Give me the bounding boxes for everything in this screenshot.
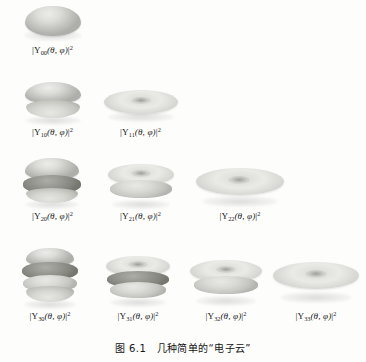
cell-Y31: |Y31(θ, φ)|2 xyxy=(88,248,188,322)
label-Y33: |Y33(θ, φ)|2 xyxy=(266,310,366,322)
cell-Y32: |Y32(θ, φ)|2 xyxy=(176,248,276,322)
cell-Y30: |Y30(θ, φ)|2 xyxy=(0,248,100,322)
shape-Y30 xyxy=(12,248,88,310)
label-Y32: |Y32(θ, φ)|2 xyxy=(176,310,276,322)
figure-row-l2: |Y20(θ, φ)|2 |Y21(θ, φ)|2 |Y22(θ, φ)|2 xyxy=(0,158,366,230)
label-Y31: |Y31(θ, φ)|2 xyxy=(88,310,188,322)
cell-Y21: |Y21(θ, φ)|2 xyxy=(88,158,193,222)
center-dimple xyxy=(128,261,148,268)
shape-Y21 xyxy=(100,158,182,210)
cell-Y22: |Y22(θ, φ)|2 xyxy=(180,158,300,222)
shape-Y10 xyxy=(15,80,91,126)
shape-shadow xyxy=(202,196,278,207)
label-Y21: |Y21(θ, φ)|2 xyxy=(88,210,193,222)
figure-row-l0: |Y00(θ, φ)|2 xyxy=(0,0,366,68)
shape-Y20 xyxy=(13,158,93,210)
figure-caption: 图 6.1 几种简单的“电子云” xyxy=(0,340,366,355)
cell-Y33: |Y33(θ, φ)|2 xyxy=(266,248,366,322)
center-dimple xyxy=(305,270,327,278)
lower-lobe xyxy=(26,100,80,118)
shape-shadow xyxy=(196,296,256,306)
lobe-4 xyxy=(26,286,74,302)
shape-Y31 xyxy=(98,248,178,310)
center-dimple xyxy=(216,266,236,273)
shape-Y32 xyxy=(184,248,268,310)
label-Y30: |Y30(θ, φ)|2 xyxy=(0,310,100,322)
figure-row-l1: |Y10(θ, φ)|2 |Y11(θ, φ)|2 xyxy=(0,80,366,148)
cell-Y11: |Y11(θ, φ)|2 xyxy=(88,80,193,138)
shape-shadow xyxy=(110,298,166,307)
shape-Y00 xyxy=(18,0,88,44)
figure-electron-clouds: |Y00(θ, φ)|2 |Y10(θ, φ)|2 |Y11(θ, φ)|2 xyxy=(0,0,366,362)
cell-Y00: |Y00(θ, φ)|2 xyxy=(0,0,105,56)
center-dimple xyxy=(131,97,151,104)
shape-Y11 xyxy=(100,80,182,126)
center-dimple xyxy=(131,170,151,177)
label-Y00: |Y00(θ, φ)|2 xyxy=(0,44,105,56)
lower-ring xyxy=(194,276,258,294)
lower-ring xyxy=(110,180,172,198)
shape-shadow xyxy=(112,200,170,209)
shape-Y33 xyxy=(270,248,362,310)
lower-ring xyxy=(110,282,166,298)
label-Y11: |Y11(θ, φ)|2 xyxy=(88,126,193,138)
center-dimple xyxy=(228,176,250,184)
label-Y22: |Y22(θ, φ)|2 xyxy=(180,210,300,222)
sphere-lobe xyxy=(25,6,81,36)
shape-shadow xyxy=(280,292,352,303)
shape-Y22 xyxy=(192,158,288,210)
figure-row-l3: |Y30(θ, φ)|2 |Y31(θ, φ)|2 xyxy=(0,248,366,328)
